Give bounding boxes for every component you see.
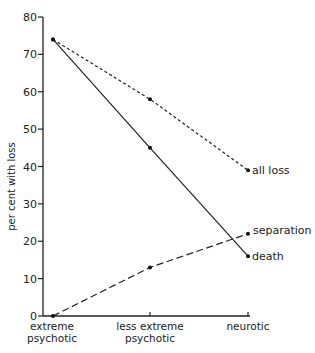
series-line-separation xyxy=(53,234,248,316)
y-tick-label: 80 xyxy=(23,11,37,24)
data-point xyxy=(148,265,152,269)
data-point xyxy=(246,254,250,258)
y-tick-label: 30 xyxy=(23,198,37,211)
x-category-label: neurotic xyxy=(226,320,269,332)
x-category-label: extreme xyxy=(30,320,74,332)
data-point xyxy=(148,97,152,101)
x-category-label: psychotic xyxy=(125,332,175,344)
line-chart: 01020304050607080extremepsychoticless ex… xyxy=(0,0,315,353)
series-label: death xyxy=(252,250,284,263)
y-tick-label: 70 xyxy=(23,48,37,61)
y-tick-label: 10 xyxy=(23,273,37,286)
series-label: separation xyxy=(253,224,312,237)
data-point xyxy=(246,232,250,236)
y-tick-label: 20 xyxy=(23,235,37,248)
series-label: all loss xyxy=(252,164,290,177)
series-line-all-loss xyxy=(53,39,248,170)
data-point xyxy=(246,168,250,172)
x-category-label: psychotic xyxy=(27,332,77,344)
y-tick-label: 40 xyxy=(23,161,37,174)
y-tick-label: 60 xyxy=(23,86,37,99)
x-category-label: less extreme xyxy=(116,320,184,332)
data-point xyxy=(51,37,55,41)
data-point xyxy=(148,146,152,150)
y-axis-label: per cent with loss xyxy=(6,142,17,231)
y-tick-label: 50 xyxy=(23,123,37,136)
data-point xyxy=(51,314,55,318)
